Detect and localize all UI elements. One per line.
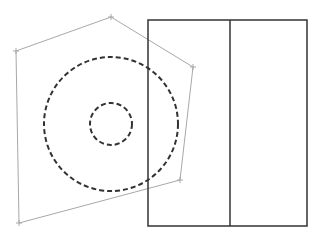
background [0,0,318,239]
diagram-canvas [0,0,318,239]
